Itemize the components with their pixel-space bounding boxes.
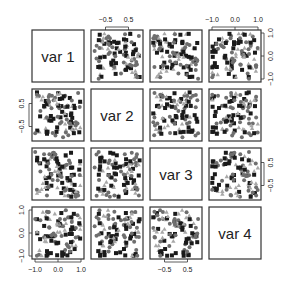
svg-text:0.5: 0.5 bbox=[183, 266, 193, 273]
scatterplot-matrix: var 1var 2var 3var 4−0.50.5−1.00.01.0−1.… bbox=[0, 0, 290, 290]
scatter-panel bbox=[150, 30, 202, 82]
svg-text:0.0: 0.0 bbox=[18, 228, 25, 238]
svg-text:−0.5: −0.5 bbox=[267, 178, 274, 192]
scatter-panel bbox=[209, 30, 261, 82]
scatter-panel bbox=[209, 89, 261, 141]
scatter-panel bbox=[91, 207, 143, 259]
variable-label: var 4 bbox=[218, 225, 251, 242]
svg-text:1.0: 1.0 bbox=[76, 266, 86, 273]
left-axis: −0.50.5 bbox=[18, 99, 32, 134]
scatter-panel bbox=[32, 207, 84, 259]
bottom-axis: −1.00.01.0 bbox=[28, 259, 86, 273]
svg-text:−1.0: −1.0 bbox=[205, 16, 219, 23]
bottom-axis: −0.50.5 bbox=[158, 259, 193, 273]
right-axis: −0.50.5 bbox=[261, 158, 274, 193]
svg-text:1.0: 1.0 bbox=[18, 205, 25, 215]
diagonal-panel: var 2 bbox=[91, 89, 143, 141]
left-axis: −1.00.01.0 bbox=[18, 205, 32, 263]
svg-text:−0.5: −0.5 bbox=[18, 119, 25, 133]
top-axis: −1.00.01.0 bbox=[205, 16, 263, 30]
diagonal-panel: var 3 bbox=[150, 148, 202, 200]
top-axis: −0.50.5 bbox=[99, 16, 134, 30]
scatter-panel bbox=[32, 89, 84, 141]
svg-text:1.0: 1.0 bbox=[267, 28, 274, 38]
diagonal-panel: var 1 bbox=[32, 30, 84, 82]
variable-label: var 1 bbox=[41, 48, 74, 65]
svg-text:0.0: 0.0 bbox=[53, 266, 63, 273]
scatter-panel bbox=[150, 207, 202, 259]
svg-text:−0.5: −0.5 bbox=[99, 16, 113, 23]
svg-text:1.0: 1.0 bbox=[253, 16, 263, 23]
scatter-panel bbox=[209, 148, 261, 200]
svg-text:−1.0: −1.0 bbox=[18, 249, 25, 263]
svg-text:0.0: 0.0 bbox=[267, 51, 274, 61]
scatter-panel bbox=[91, 148, 143, 200]
scatter-panel bbox=[91, 30, 143, 82]
svg-text:−0.5: −0.5 bbox=[158, 266, 172, 273]
diagonal-panel: var 4 bbox=[209, 207, 261, 259]
svg-text:0.5: 0.5 bbox=[18, 99, 25, 109]
variable-label: var 3 bbox=[159, 166, 192, 183]
svg-text:0.0: 0.0 bbox=[230, 16, 240, 23]
svg-text:−1.0: −1.0 bbox=[267, 72, 274, 86]
right-axis: −1.00.01.0 bbox=[261, 28, 274, 86]
variable-label: var 2 bbox=[100, 107, 133, 124]
svg-text:0.5: 0.5 bbox=[267, 158, 274, 168]
svg-text:0.5: 0.5 bbox=[124, 16, 134, 23]
svg-text:−1.0: −1.0 bbox=[28, 266, 42, 273]
scatter-panel bbox=[32, 148, 84, 200]
scatter-panel bbox=[150, 89, 202, 141]
